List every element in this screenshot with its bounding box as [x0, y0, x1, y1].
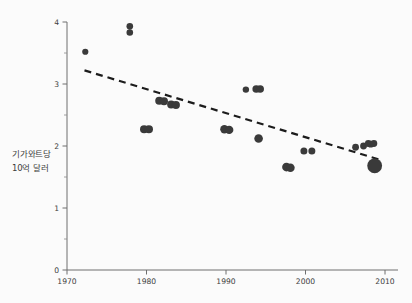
- y-tick-label: 4: [54, 18, 59, 27]
- y-tick-label: 2: [54, 142, 59, 151]
- y-axis: 01234: [54, 18, 67, 275]
- scatter-plot: 01234 19701980199020002010: [0, 0, 412, 303]
- data-point: [308, 147, 315, 154]
- data-point: [127, 23, 134, 30]
- data-point: [256, 85, 264, 93]
- x-tick-label: 2000: [296, 277, 315, 286]
- y-tick-label: 3: [54, 80, 59, 89]
- data-point: [254, 134, 263, 143]
- y-tick-label: 1: [54, 204, 59, 213]
- data-point: [82, 49, 88, 55]
- data-point: [367, 158, 382, 173]
- data-point: [352, 144, 359, 151]
- data-point: [127, 29, 134, 36]
- data-point: [286, 163, 295, 172]
- x-tick-label: 1970: [57, 277, 76, 286]
- x-axis: 19701980199020002010: [57, 270, 398, 286]
- trend-line: [84, 70, 381, 160]
- x-tick-label: 1990: [216, 277, 235, 286]
- data-point: [300, 147, 307, 154]
- trend-line-dashed: [84, 70, 381, 160]
- y-tick-label: 0: [54, 266, 59, 275]
- chart-container: 기가와트당 10억 달러 01234 19701980199020002010: [0, 0, 412, 303]
- data-point: [160, 97, 168, 105]
- data-points: [82, 23, 382, 173]
- data-point: [145, 125, 153, 133]
- data-point: [172, 101, 180, 109]
- x-tick-label: 2010: [375, 277, 394, 286]
- data-point: [243, 86, 249, 92]
- x-tick-label: 1980: [137, 277, 156, 286]
- data-point: [370, 140, 377, 147]
- data-point: [225, 126, 233, 134]
